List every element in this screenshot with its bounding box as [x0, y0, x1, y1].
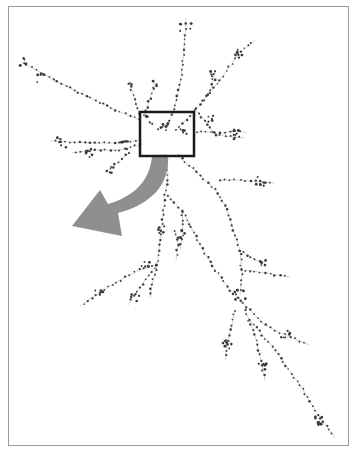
graph-node [196, 239, 198, 241]
graph-node [158, 250, 160, 252]
graph-node [229, 131, 231, 133]
graph-node [237, 54, 239, 56]
graph-node [91, 297, 93, 299]
graph-node [106, 170, 109, 173]
graph-node [147, 100, 149, 102]
graph-node [118, 162, 120, 164]
graph-node [130, 89, 132, 91]
graph-node [214, 79, 217, 82]
graph-node [183, 129, 186, 132]
graph-node [136, 107, 138, 109]
graph-node [290, 336, 292, 338]
graph-node [142, 283, 144, 285]
graph-node [180, 128, 182, 130]
graph-node [60, 83, 62, 85]
graph-node [265, 362, 268, 365]
graph-node [219, 132, 222, 135]
graph-node [308, 400, 311, 403]
graph-node [240, 50, 242, 52]
graph-node [206, 123, 208, 125]
graph-node [236, 289, 238, 291]
graph-node [64, 141, 66, 143]
graph-node [124, 153, 127, 156]
graph-node [257, 317, 259, 319]
graph-node [157, 260, 159, 262]
graph-node [259, 180, 261, 182]
graph-node [264, 368, 267, 371]
graph-node [113, 163, 115, 165]
graph-node [136, 291, 138, 293]
graph-node [101, 290, 104, 293]
graph-node [148, 261, 151, 264]
graph-node [256, 340, 258, 342]
graph-node [154, 267, 156, 269]
graph-node [143, 114, 145, 116]
graph-node [174, 104, 176, 106]
graph-node [226, 70, 228, 72]
graph-node [233, 134, 235, 136]
graph-node [225, 350, 227, 352]
graph-node [102, 102, 104, 104]
graph-node [159, 239, 161, 241]
graph-node [219, 196, 221, 198]
graph-node [211, 119, 214, 122]
graph-node [59, 138, 61, 140]
graph-node [179, 23, 181, 25]
graph-node [155, 83, 157, 85]
graph-node [239, 265, 241, 267]
graph-node [119, 111, 121, 113]
graph-node [236, 52, 238, 54]
graph-node [234, 235, 236, 237]
graph-node [228, 347, 230, 349]
graph-node [222, 76, 224, 78]
graph-node [182, 223, 184, 225]
graph-node [49, 76, 51, 78]
graph-node [130, 293, 133, 296]
graph-node [202, 178, 204, 180]
graph-node [234, 57, 236, 59]
graph-node [230, 343, 233, 346]
graph-node [269, 326, 271, 328]
graph-node [145, 115, 148, 118]
graph-node [36, 73, 39, 76]
graph-node [240, 54, 243, 57]
graph-node [134, 293, 136, 295]
graph-node [120, 141, 123, 144]
graph-node [114, 142, 117, 145]
graph-node [184, 43, 186, 45]
graph-node [89, 150, 91, 152]
graph-node [165, 190, 167, 192]
graph-node [264, 264, 267, 267]
graph-node [69, 142, 71, 144]
graph-node [184, 22, 186, 24]
graph-node [242, 289, 245, 292]
graph-node [259, 183, 262, 186]
graph-node [149, 121, 151, 123]
edge-left-down-long [80, 265, 157, 306]
graph-node [231, 224, 233, 226]
graph-node [257, 349, 260, 352]
graph-node [199, 243, 201, 245]
graph-node [219, 179, 221, 181]
graph-node [255, 183, 258, 186]
graph-node [193, 232, 195, 234]
graph-node [273, 274, 275, 276]
graph-node [94, 141, 96, 143]
graph-node [66, 85, 68, 87]
graph-node [130, 86, 132, 88]
graph-node [199, 174, 201, 176]
graph-node [107, 285, 109, 287]
graph-node [178, 126, 180, 128]
graph-node [209, 126, 211, 128]
graph-node [54, 139, 56, 141]
graph-node [244, 309, 246, 311]
graph-node [104, 149, 106, 151]
graph-node [149, 292, 151, 294]
graph-node [79, 141, 81, 143]
graph-node [224, 204, 226, 206]
graph-node [103, 289, 105, 291]
graph-node [184, 38, 186, 40]
graph-node [160, 229, 163, 232]
graph-node [181, 122, 183, 124]
graph-node [210, 73, 212, 75]
